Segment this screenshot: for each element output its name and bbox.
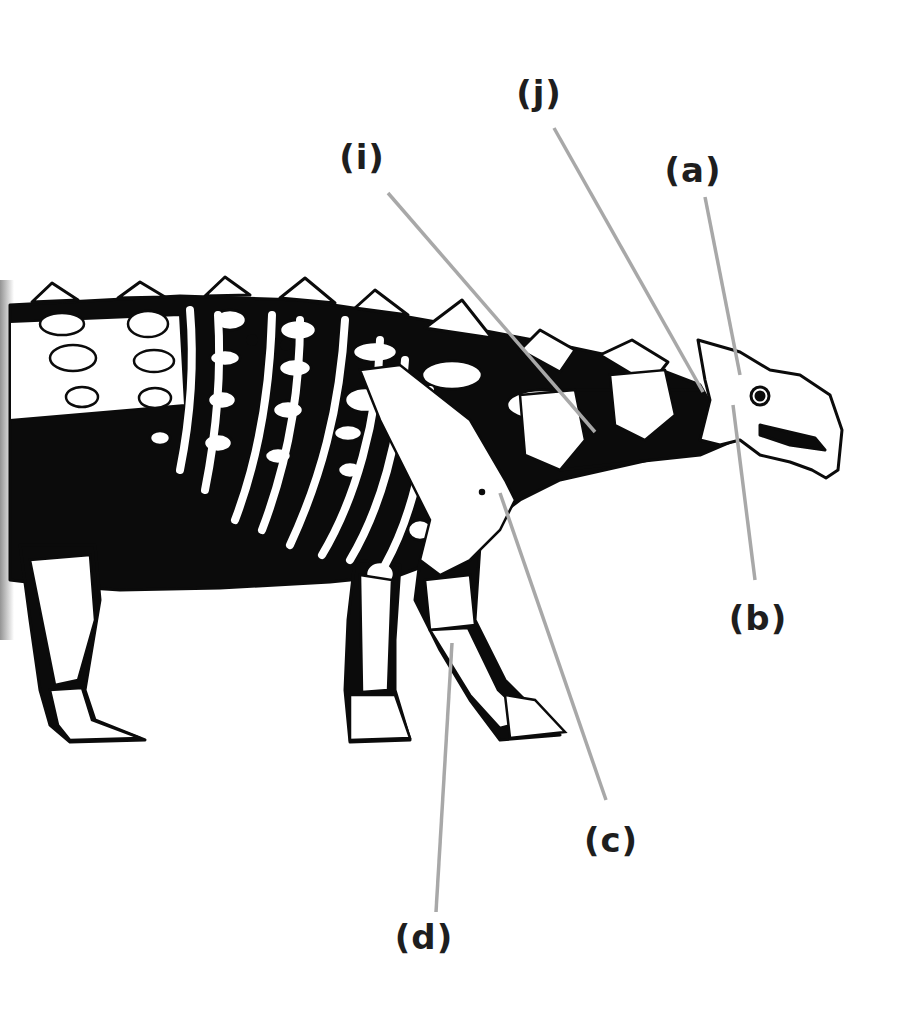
leader-lines xyxy=(0,0,899,1014)
label-a: (a) xyxy=(664,153,721,187)
label-i: (i) xyxy=(339,140,385,174)
leader-line-a xyxy=(705,197,740,375)
label-j: (j) xyxy=(516,76,562,110)
leader-line-d xyxy=(436,643,452,912)
leader-line-c xyxy=(500,493,606,800)
label-b: (b) xyxy=(729,601,787,635)
leader-line-i xyxy=(388,193,595,432)
label-c: (c) xyxy=(584,823,638,857)
leader-line-b xyxy=(733,405,755,580)
label-d: (d) xyxy=(395,920,453,954)
diagram-figure: (a) (b) (c) (d) (i) (j) xyxy=(0,0,899,1014)
